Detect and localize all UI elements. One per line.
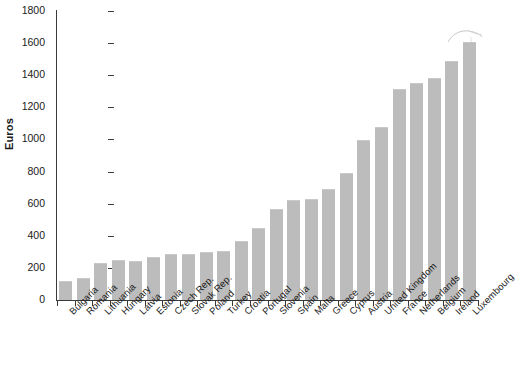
y-tick-label: 600: [5, 197, 45, 209]
bar: [322, 189, 335, 300]
y-tick-mark: [108, 139, 114, 140]
y-tick-mark: [108, 107, 114, 108]
bar: [305, 199, 318, 300]
y-tick-mark: [108, 236, 114, 237]
y-tick-label: 1600: [5, 36, 45, 48]
y-tick-mark: [108, 204, 114, 205]
bar: [445, 61, 458, 300]
y-tick-mark: [108, 172, 114, 173]
y-tick-label: 1200: [5, 100, 45, 112]
bar: [340, 173, 353, 300]
y-tick-mark: [108, 43, 114, 44]
y-tick-label: 1000: [5, 132, 45, 144]
y-tick-label: 200: [5, 261, 45, 273]
bar: [59, 281, 72, 300]
y-tick-label: 800: [5, 165, 45, 177]
y-tick-mark: [108, 11, 114, 12]
bar: [463, 42, 476, 300]
y-tick-label: 1800: [5, 4, 45, 16]
y-tick-mark: [108, 75, 114, 76]
y-tick-label: 1400: [5, 68, 45, 80]
y-tick-label: 400: [5, 229, 45, 241]
bar: [393, 89, 406, 300]
bar: [375, 127, 388, 300]
bar: [287, 200, 300, 300]
plot-area: 020040060080010001200140016001800: [57, 11, 478, 300]
bar: [410, 83, 423, 300]
bar: [357, 140, 370, 300]
y-tick-label: 0: [5, 293, 45, 305]
x-tick-mark: [57, 301, 58, 306]
